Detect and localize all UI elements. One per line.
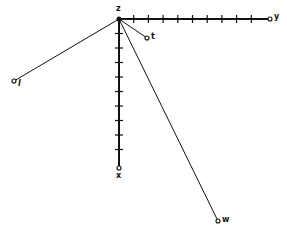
axis-label-x: x xyxy=(116,172,121,180)
origin-label-z: z xyxy=(116,5,121,13)
ray-w xyxy=(119,19,217,219)
ray-l xyxy=(16,19,119,80)
origin-point xyxy=(117,17,122,22)
ray-label-t: t xyxy=(151,33,155,41)
ray-l-endpoint xyxy=(12,79,16,83)
ray-t-endpoint xyxy=(145,36,149,40)
vector-diagram: z y x t l w xyxy=(0,0,287,236)
ray-w-endpoint xyxy=(216,219,220,223)
ray-label-w: w xyxy=(222,216,229,224)
axis-label-y: y xyxy=(274,13,279,21)
ray-label-l: l xyxy=(18,80,21,88)
y-axis-endpoint xyxy=(268,17,272,21)
x-axis-endpoint xyxy=(117,166,121,170)
diagram-drawing xyxy=(0,0,287,236)
